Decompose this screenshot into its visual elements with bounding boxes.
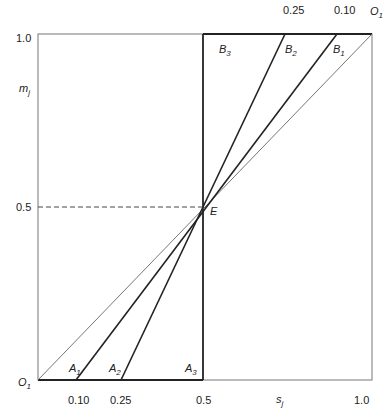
y-tick-half: 0.5 [16, 201, 31, 213]
top-tick-025: 0.25 [283, 4, 304, 16]
x-axis-label: sj [276, 393, 284, 408]
label-a1: A1 [68, 362, 81, 377]
x-tick-1: 1.0 [354, 394, 369, 406]
x-tick-half: 0.5 [196, 394, 211, 406]
y-tick-1: 1.0 [16, 32, 31, 44]
label-e: E [210, 205, 218, 217]
label-b3: B3 [219, 43, 231, 58]
label-b2: B2 [285, 43, 297, 58]
x-tick-025: 0.25 [110, 394, 131, 406]
label-a3: A3 [184, 362, 197, 377]
label-a2: A2 [108, 362, 121, 377]
x-tick-010: 0.10 [68, 394, 89, 406]
line-a1-b1 [76, 34, 337, 380]
origin-bottom-left: O1 [18, 376, 31, 391]
diagram-canvas: 1.0 0.5 mj 0.25 0.10 O1 B3 B2 B1 E A1 A2… [0, 0, 390, 420]
label-b1: B1 [333, 43, 345, 58]
top-tick-010: 0.10 [334, 4, 355, 16]
origin-top-right: O1 [370, 5, 383, 20]
y-axis-label: mj [19, 82, 30, 97]
